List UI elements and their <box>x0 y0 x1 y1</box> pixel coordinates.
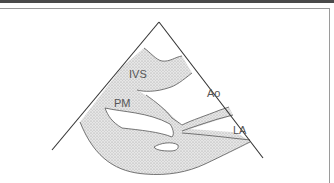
myocardium-region <box>80 48 250 175</box>
label-ivs: IVS <box>129 68 147 80</box>
label-la: LA <box>233 124 247 136</box>
echo-sector-diagram: IVS PM Ao LA <box>0 0 334 183</box>
label-pm: PM <box>114 97 131 109</box>
label-ao: Ao <box>207 87 220 99</box>
